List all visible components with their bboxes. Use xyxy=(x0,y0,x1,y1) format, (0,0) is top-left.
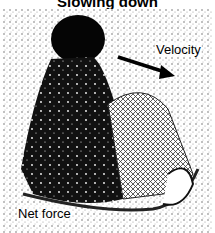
head xyxy=(51,15,105,63)
velocity-label: Velocity xyxy=(155,42,202,57)
net-force-label: Net force xyxy=(17,206,72,221)
